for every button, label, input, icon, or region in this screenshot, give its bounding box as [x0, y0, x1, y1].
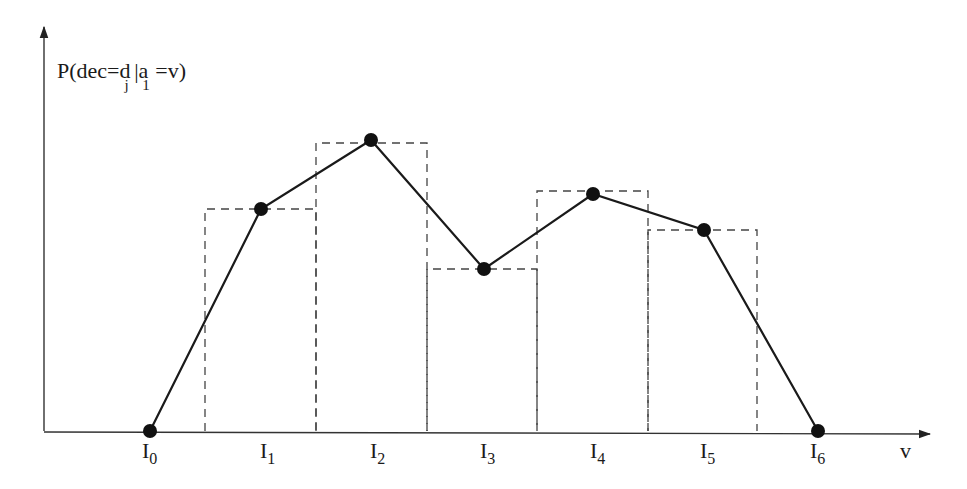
x-axis: [44, 432, 930, 434]
data-point-I3: [477, 262, 491, 276]
data-points: [143, 133, 825, 438]
data-point-I1: [254, 202, 268, 216]
dashed-interval-bars: [205, 143, 757, 431]
interpolated-curve: [150, 140, 818, 431]
data-point-I4: [586, 187, 600, 201]
interval-bar-I4: [537, 191, 648, 431]
interval-bar-I1: [205, 209, 316, 431]
x-tick-label-I1: I1: [260, 438, 275, 467]
x-tick-label-I4: I4: [590, 438, 605, 467]
x-tick-label-I6: I6: [810, 438, 825, 467]
data-point-I2: [364, 133, 378, 147]
y-axis-label: P(dec=dj |a1 =v): [57, 58, 186, 93]
x-tick-label-I5: I5: [700, 438, 715, 467]
x-tick-labels: I0I1I2I3I4I5I6: [142, 438, 825, 467]
interval-bar-I5: [648, 230, 757, 431]
x-tick-label-I0: I0: [142, 438, 157, 467]
x-axis-label: v: [900, 438, 911, 463]
data-point-I6: [811, 424, 825, 438]
probability-interpolation-diagram: P(dec=dj |a1 =v) I0I1I2I3I4I5I6 v: [0, 0, 967, 489]
x-tick-label-I3: I3: [480, 438, 495, 467]
x-tick-label-I2: I2: [370, 438, 385, 467]
data-point-I5: [697, 223, 711, 237]
data-point-I0: [143, 424, 157, 438]
interval-bar-I3: [427, 269, 537, 431]
